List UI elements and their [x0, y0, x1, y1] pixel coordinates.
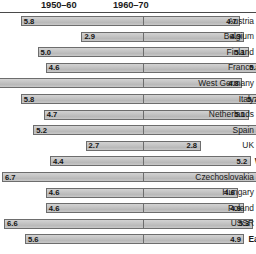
chart-row: 4.64.6Hungary — [0, 188, 256, 199]
chart-row: 5.85.7Italy — [0, 94, 256, 105]
bar-value-right: 2.8 — [186, 141, 197, 151]
chart-row: 4.64.9Poland — [0, 203, 256, 214]
bar: 4.64.6 — [46, 188, 238, 198]
bar-value-left: 4.6 — [49, 188, 60, 198]
bar-value-left: 4.6 — [49, 204, 60, 214]
row-label: Belgium — [224, 31, 254, 42]
bar-value-left: 4.4 — [53, 157, 64, 167]
bar-center-divider — [143, 64, 144, 72]
bar-center-divider — [143, 220, 144, 228]
chart-row: 5.64.9East European average — [0, 234, 256, 245]
row-label: Spain — [233, 125, 254, 136]
chart-row: 4.65.8France — [0, 63, 256, 74]
chart-row: 6.76.9Czechoslovakia — [0, 172, 256, 183]
row-label: Poland — [228, 203, 254, 214]
row-label: USSR — [231, 218, 254, 229]
bar: 2.72.8 — [86, 141, 201, 151]
chart-row: 7.84.8West Germany — [0, 78, 256, 89]
bar-center-divider — [143, 79, 144, 87]
bar-value-left: 2.9 — [84, 32, 95, 42]
bar-center-divider — [143, 126, 144, 134]
row-label: Hungary — [222, 187, 254, 198]
chart-row: 5.84.7Austria — [0, 16, 256, 27]
row-label: UK — [242, 140, 254, 151]
bar-value-left: 6.6 — [7, 219, 18, 229]
chart-row: 2.72.8UK — [0, 141, 256, 152]
row-label: Czechoslovakia — [195, 172, 254, 183]
bar-value-left: 5.6 — [28, 235, 39, 245]
bar-value-left: 5.8 — [24, 95, 35, 105]
chart-row: 5.05.1Finland — [0, 47, 256, 58]
chart-row: 2.94.9Belgium — [0, 32, 256, 43]
bar-value-left: 6.7 — [5, 173, 16, 183]
bar-value-left: 4.7 — [47, 110, 58, 120]
row-label: Italy — [239, 94, 254, 105]
bar-value-left: 5.0 — [41, 48, 52, 58]
bar-value-right: 4.9 — [230, 235, 241, 245]
bar-center-divider — [143, 157, 144, 165]
diverging-bar-chart: 1950–60 1960–70 5.84.7Austria2.94.9Belgi… — [0, 0, 256, 254]
header-period-left: 1950–60 — [41, 0, 77, 11]
bar-center-divider — [143, 48, 144, 56]
row-label: West Germany — [198, 78, 254, 89]
bar-value-left: 2.7 — [89, 141, 100, 151]
bar: 5.05.1 — [38, 47, 249, 57]
bar-center-divider — [143, 17, 144, 25]
chart-row: 4.45.2West European average — [0, 156, 256, 167]
bar: 4.64.9 — [46, 203, 245, 213]
bar: 5.84.7 — [21, 16, 240, 26]
bar-value-left: 4.6 — [49, 63, 60, 73]
bar-center-divider — [143, 111, 144, 119]
bar-value-right: 5.2 — [237, 157, 248, 167]
header-rule — [0, 12, 256, 13]
header-period-right: 1960–70 — [113, 0, 149, 11]
bar: 5.64.9 — [25, 234, 244, 244]
bar-center-divider — [143, 173, 144, 181]
row-label: France — [228, 62, 254, 73]
row-label: Finland — [227, 47, 254, 58]
bar-center-divider — [143, 33, 144, 41]
row-label: Netherlands — [209, 109, 254, 120]
row-label: Austria — [228, 16, 254, 27]
chart-row: 4.75.1Netherlands — [0, 110, 256, 121]
chart-row: 6.65.3USSR — [0, 219, 256, 230]
bar: 2.94.9 — [81, 32, 244, 42]
bar-value-left: 5.2 — [36, 126, 47, 136]
bar-center-divider — [143, 204, 144, 212]
row-label: West European average — [255, 156, 256, 167]
bar-center-divider — [143, 189, 144, 197]
bar-center-divider — [143, 235, 144, 243]
chart-header: 1950–60 1960–70 — [0, 0, 256, 12]
bar: 5.85.7 — [21, 94, 256, 104]
bar-center-divider — [143, 142, 144, 150]
bar-center-divider — [143, 95, 144, 103]
bar: 5.27.5 — [33, 125, 256, 135]
bar-value-left: 5.8 — [24, 17, 35, 27]
row-label: East European average — [248, 234, 256, 245]
bar: 6.65.3 — [4, 219, 253, 229]
chart-row: 5.27.5Spain — [0, 125, 256, 136]
bar: 4.65.8 — [46, 63, 256, 73]
bar: 4.45.2 — [50, 156, 251, 166]
